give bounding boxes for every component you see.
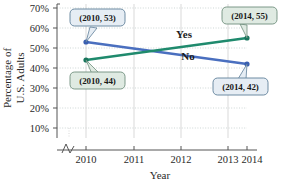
y-axis-ticks <box>53 8 57 128</box>
ytick-label-10: 10% <box>30 123 50 134</box>
y-axis-title-line2: U.S. Adults <box>14 52 26 103</box>
ytick-label-20: 20% <box>30 103 50 114</box>
xtick-label-2014: 2014 <box>242 154 264 165</box>
ytick-label-70: 70% <box>30 3 50 14</box>
x-axis-ticks <box>86 146 247 150</box>
callout-2010-53-text: (2010, 53) <box>79 13 116 23</box>
ytick-label-40: 40% <box>30 63 50 74</box>
y-axis-title-line1: Percentage of <box>1 48 13 108</box>
x-axis-title: Year <box>150 169 171 181</box>
callout-2014-42-text: (2014, 42) <box>222 82 259 92</box>
ytick-label-60: 60% <box>30 23 50 34</box>
xtick-label-2013: 2013 <box>218 154 239 165</box>
xtick-label-2011: 2011 <box>124 154 145 165</box>
line-chart: 70% 60% 50% 40% 30% 20% 10% 2010 2011 20… <box>0 0 286 184</box>
xtick-label-2012: 2012 <box>171 154 192 165</box>
chart-canvas: 70% 60% 50% 40% 30% 20% 10% 2010 2011 20… <box>0 0 286 184</box>
series-label-yes: Yes <box>176 28 193 40</box>
callout-2014-55-text: (2014, 55) <box>231 11 268 21</box>
series-label-no: No <box>181 50 195 62</box>
ytick-label-30: 30% <box>30 83 50 94</box>
ytick-label-50: 50% <box>30 43 50 54</box>
xtick-label-2010: 2010 <box>76 154 97 165</box>
callout-2010-44-text: (2010, 44) <box>79 76 116 86</box>
x-axis-break-icon <box>62 144 74 153</box>
